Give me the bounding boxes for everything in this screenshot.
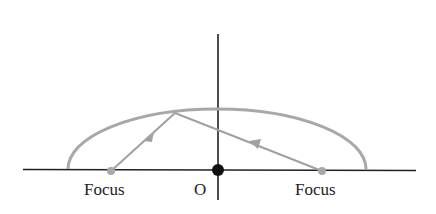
left-focus-point xyxy=(107,167,115,175)
origin-label: O xyxy=(194,180,206,199)
ellipse-focus-diagram: Focus O Focus xyxy=(0,0,436,214)
reflected-ray-arrow-icon xyxy=(144,133,155,142)
right-focus-point xyxy=(318,167,326,175)
half-ellipse xyxy=(68,109,366,169)
incident-ray xyxy=(175,113,322,171)
left-focus-label: Focus xyxy=(84,180,125,199)
incident-ray-arrow-icon xyxy=(249,139,261,149)
origin-point xyxy=(212,164,224,176)
right-focus-label: Focus xyxy=(295,180,336,199)
